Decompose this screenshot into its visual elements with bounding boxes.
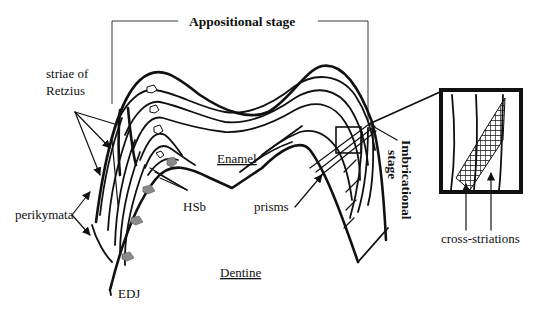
appositional-stage-label: Appositional stage <box>189 14 295 29</box>
prisms-pointer <box>295 175 322 207</box>
perikymata-label: perikymata <box>15 207 74 222</box>
prisms-label: prisms <box>254 199 289 214</box>
appositional-stage-bracket: Appositional stage <box>112 14 368 122</box>
perikymata-pointers <box>72 192 90 235</box>
dentine-label: Dentine <box>220 265 261 280</box>
inset-connector <box>369 92 440 140</box>
imbricational-stage-label: Imbricational stage <box>385 140 414 220</box>
hsb-label: HSb <box>183 199 206 214</box>
striae-label-1: striae of <box>46 66 89 81</box>
imbricational-label-line1: Imbricational <box>399 140 414 220</box>
cross-striations-label: cross-striations <box>441 231 520 246</box>
left-imbrication-lines <box>100 108 145 265</box>
enamel-growth-diagram: Appositional stage <box>0 0 537 313</box>
imbricational-label-line2: stage <box>385 150 400 179</box>
edj-tick <box>110 290 111 295</box>
enamel-label: Enamel <box>217 151 257 166</box>
edj-label: EDJ <box>118 286 140 301</box>
striae-label-2: Retzius <box>46 83 85 98</box>
inset-magnification <box>441 90 521 230</box>
